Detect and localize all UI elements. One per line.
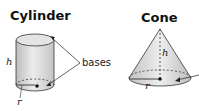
cylinder-radius-label: r xyxy=(17,96,22,107)
bases-label: bases xyxy=(82,57,111,68)
cone-title: Cone xyxy=(141,10,178,25)
cylinder-shape xyxy=(16,34,80,98)
cone-radius-label: r xyxy=(145,80,150,91)
cone-height-label: h xyxy=(162,47,168,58)
cylinder-title: Cylinder xyxy=(10,8,71,23)
cylinder-height-label: h xyxy=(6,56,12,67)
